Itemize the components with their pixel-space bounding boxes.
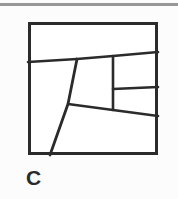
figure-panel: C — [0, 0, 178, 199]
figure-caption-label: C — [26, 165, 41, 191]
